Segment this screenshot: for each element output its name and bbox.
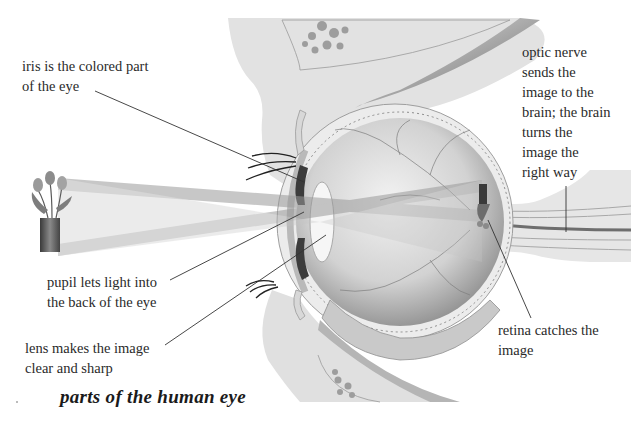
iris-label: iris is the colored part of the eye: [22, 56, 148, 96]
pupil-label-line-2: the back of the eye: [47, 292, 157, 312]
pupil-label: pupil lets light into the back of the ey…: [47, 272, 157, 312]
retina-label-line-1: retina catches the: [498, 320, 599, 340]
optic-nerve-label-line-5: turns the: [522, 122, 611, 142]
optic-nerve-label-line-1: optic nerve: [522, 42, 611, 62]
optic-nerve-label: optic nerve sends the image to the brain…: [522, 42, 611, 182]
lens-label-line-1: lens makes the image: [25, 338, 149, 358]
optic-nerve-label-line-7: right way: [522, 162, 611, 182]
figure-caption: parts of the human eye: [60, 386, 246, 408]
pupil-label-line-1: pupil lets light into: [47, 272, 157, 292]
optic-nerve-label-line-3: image to the: [522, 82, 611, 102]
lens-label: lens makes the image clear and sharp: [25, 338, 149, 378]
iris-label-line-1: iris is the colored part: [22, 56, 148, 76]
optic-nerve-label-line-6: image the: [522, 142, 611, 162]
retina-label: retina catches the image: [498, 320, 599, 360]
stray-mark: [16, 401, 18, 403]
optic-nerve-label-line-2: sends the: [522, 62, 611, 82]
iris-label-line-2: of the eye: [22, 76, 148, 96]
retina-label-line-2: image: [498, 340, 599, 360]
optic-nerve-label-line-4: brain; the brain: [522, 102, 611, 122]
lens-label-line-2: clear and sharp: [25, 358, 149, 378]
